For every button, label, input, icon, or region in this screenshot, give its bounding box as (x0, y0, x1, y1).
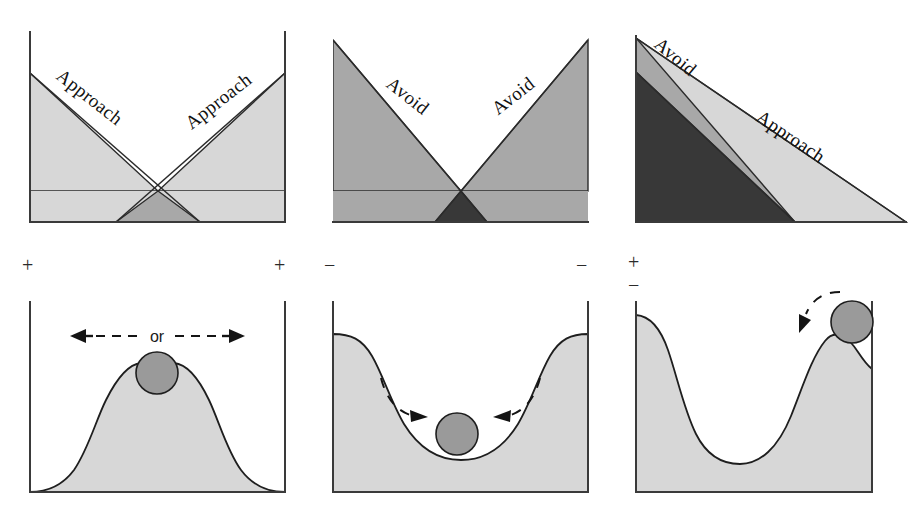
panel-approach-approach-gradient: Approach Approach (30, 32, 285, 222)
terrain-valley-right-hill (636, 315, 872, 492)
panel-approach-avoid-gradient: Avoid Approach (636, 33, 906, 222)
arrow-inward-left-head (410, 410, 428, 422)
arrow-right-head (229, 329, 245, 343)
panel-avoid-avoid-gradient: Avoid Avoid (333, 40, 588, 222)
figure-canvas: Approach Approach + + or (0, 0, 917, 520)
panel-approach-avoid-terrain (636, 292, 873, 492)
arrow-fall-head (799, 314, 811, 333)
sign-minus: − (628, 274, 639, 296)
label-or: or (150, 328, 165, 345)
annotation-or-arrows: or (70, 328, 245, 345)
ball-marker (436, 413, 478, 455)
sign-left-minus: − (324, 254, 335, 276)
conflict-diagram-figure: Approach Approach + + or (0, 0, 917, 520)
sign-right-plus: + (274, 254, 285, 276)
panel-approach-approach-terrain: or (30, 302, 285, 492)
sign-right-minus: − (576, 254, 587, 276)
signs-approach-approach: + + (22, 254, 285, 276)
arrow-inward-right-head (493, 410, 511, 422)
signs-avoid-avoid: − − (324, 254, 587, 276)
arrow-left-head (70, 329, 86, 343)
sign-left-plus: + (22, 254, 33, 276)
sign-plus: + (628, 251, 639, 273)
signs-approach-avoid: + − (628, 251, 639, 296)
ball-marker (831, 301, 873, 343)
ball-marker (136, 352, 178, 394)
panel-avoid-avoid-terrain (333, 302, 588, 492)
